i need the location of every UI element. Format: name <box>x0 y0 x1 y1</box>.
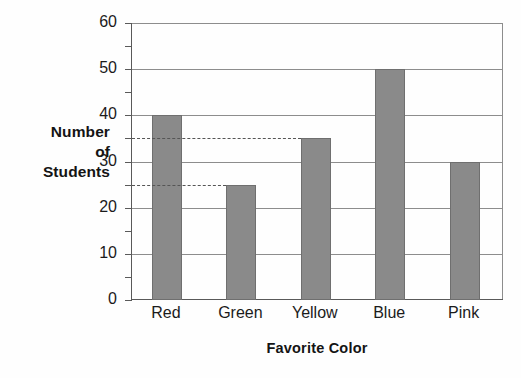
y-tick-major-10 <box>125 254 132 255</box>
y-axis-title-line-1: Number <box>6 122 110 142</box>
y-tick-label-40: 40 <box>77 105 117 123</box>
gridline-40 <box>132 115 503 116</box>
y-tick-label-50: 50 <box>77 59 117 77</box>
y-tick-minor-55 <box>125 46 132 47</box>
bar-green <box>226 185 256 300</box>
gridline-60 <box>132 23 503 24</box>
gridline-50 <box>132 69 503 70</box>
y-tick-major-30 <box>125 162 132 163</box>
dashed-guide-35 <box>132 138 301 139</box>
bar-pink <box>450 162 480 301</box>
y-tick-major-0 <box>125 300 132 301</box>
y-tick-minor-15 <box>125 231 132 232</box>
y-tick-label-0: 0 <box>77 290 117 308</box>
x-axis-title: Favorite Color <box>131 340 503 356</box>
bar-yellow <box>301 138 331 300</box>
y-tick-label-30: 30 <box>77 152 117 170</box>
bar-chart-figure: Number of Students Favorite Color 010203… <box>0 0 521 378</box>
y-tick-major-60 <box>125 23 132 24</box>
plot-area <box>131 23 503 300</box>
bar-red <box>152 115 182 300</box>
y-tick-minor-45 <box>125 92 132 93</box>
y-tick-major-50 <box>125 69 132 70</box>
y-tick-minor-5 <box>125 277 132 278</box>
y-tick-label-20: 20 <box>77 198 117 216</box>
y-tick-label-60: 60 <box>77 13 117 31</box>
x-tick-label-pink: Pink <box>414 304 514 322</box>
y-tick-label-10: 10 <box>77 244 117 262</box>
y-tick-major-20 <box>125 208 132 209</box>
bar-blue <box>375 69 405 300</box>
dashed-guide-25 <box>132 185 226 186</box>
y-tick-minor-25 <box>125 185 132 186</box>
y-tick-major-40 <box>125 115 132 116</box>
y-tick-minor-35 <box>125 138 132 139</box>
